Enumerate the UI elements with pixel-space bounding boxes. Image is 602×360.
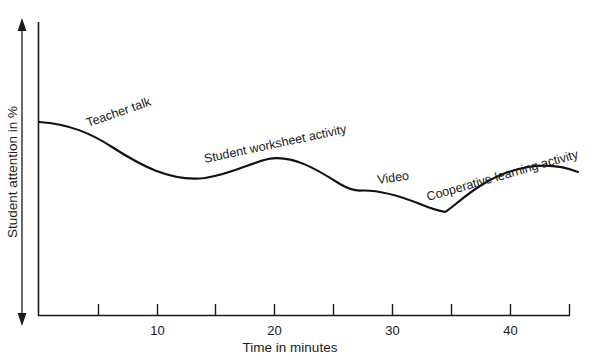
- segment-label-teacher-talk: Teacher talk: [84, 94, 153, 129]
- x-axis-title: Time in minutes: [243, 340, 338, 355]
- attention-curve-chart: 10 20 30 40 Time in minutes Student atte…: [0, 0, 602, 360]
- x-tick-label-30: 30: [385, 323, 399, 338]
- segment-label-student-worksheet-activity: Student worksheet activity: [203, 122, 349, 166]
- segment-label-video: Video: [376, 169, 409, 187]
- x-tick-label-10: 10: [150, 323, 164, 338]
- y-axis-title: Student attention in %: [5, 106, 20, 238]
- segment-label-cooperative-learning-activity: Cooperative learning activity: [425, 147, 581, 204]
- x-tick-label-20: 20: [267, 323, 281, 338]
- x-tick-label-40: 40: [503, 323, 517, 338]
- x-axis-ticks: [99, 304, 570, 316]
- chart-canvas: 10 20 30 40 Time in minutes Student atte…: [0, 0, 602, 360]
